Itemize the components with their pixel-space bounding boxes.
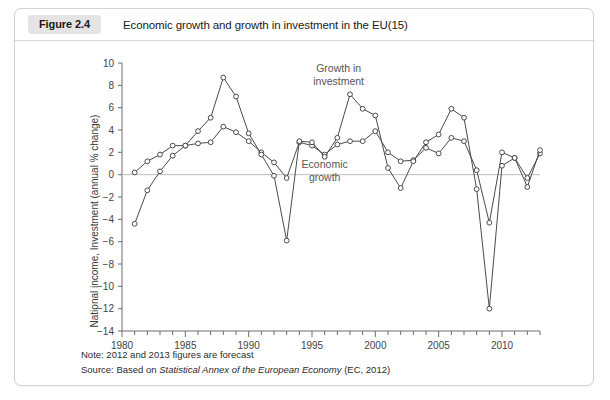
series-data-point: [259, 152, 264, 157]
series-data-point: [398, 159, 403, 164]
series-data-point: [487, 306, 492, 311]
chart-annotations: Growth ininvestmentEconomicgrowth: [302, 62, 364, 183]
annotation-line-2: investment: [313, 75, 364, 87]
source-prefix: Source: Based on: [81, 364, 159, 375]
series-data-point: [462, 115, 467, 120]
line-chart: National income, Investment (annual % ch…: [15, 41, 595, 351]
series-data-point: [500, 163, 505, 168]
series-data-point: [145, 159, 150, 164]
y-tick-label: −6: [103, 236, 115, 247]
series-data-point: [284, 238, 289, 243]
series-data-point: [246, 139, 251, 144]
series-data-point: [436, 132, 441, 137]
series-data-point: [170, 143, 175, 148]
series-data-point: [474, 168, 479, 173]
series-data-point: [449, 106, 454, 111]
y-tick-label: 4: [108, 125, 114, 136]
series-data-point: [196, 129, 201, 134]
y-tick-label: −4: [103, 214, 115, 225]
series-data-point: [386, 166, 391, 171]
annotation-line-2: growth: [309, 171, 341, 183]
series-data-point: [196, 141, 201, 146]
series-data-point: [208, 140, 213, 145]
series-layer: [132, 75, 542, 311]
figure-source: Source: Based on Statistical Annex of th…: [81, 362, 593, 377]
series-data-point: [272, 160, 277, 165]
series-data-point: [360, 139, 365, 144]
series-data-point: [525, 176, 530, 181]
series-data-point: [398, 186, 403, 191]
y-tick-label: −10: [97, 281, 114, 292]
series-data-point: [525, 185, 530, 190]
series-data-point: [170, 153, 175, 158]
figure-card: Figure 2.4 Economic growth and growth in…: [14, 8, 594, 386]
series-data-point: [335, 142, 340, 147]
series-data-point: [386, 150, 391, 155]
source-title: Statistical Annex of the European Econom…: [159, 364, 341, 375]
series-data-point: [208, 115, 213, 120]
series-data-point: [183, 143, 188, 148]
series-data-point: [145, 188, 150, 193]
series-data-point: [487, 220, 492, 225]
annotation-1: Growth ininvestment: [313, 62, 364, 87]
series-data-point: [221, 75, 226, 80]
y-axis-ticks: 1086420−2−4−6−8−10−12−14: [97, 58, 122, 337]
figure-title: Economic growth and growth in investment…: [123, 19, 408, 31]
series-data-point: [234, 94, 239, 99]
series-data-point: [158, 152, 163, 157]
series-data-point: [234, 130, 239, 135]
series-data-point: [348, 92, 353, 97]
figure-number-badge: Figure 2.4: [28, 15, 101, 34]
annotation-line-1: Growth in: [316, 62, 361, 74]
series-data-point: [436, 151, 441, 156]
y-tick-label: −12: [97, 303, 114, 314]
y-tick-label: −14: [97, 326, 114, 337]
y-tick-label: 6: [108, 102, 114, 113]
series-data-point: [449, 135, 454, 140]
annotation-2: Economicgrowth: [302, 158, 348, 183]
source-suffix: (EC, 2012): [342, 364, 391, 375]
series-data-point: [373, 129, 378, 134]
y-tick-label: 10: [103, 58, 115, 69]
figure-footer: Note: 2012 and 2013 figures are forecast…: [15, 347, 593, 377]
y-tick-label: −8: [103, 259, 115, 270]
series-data-point: [500, 150, 505, 155]
y-tick-label: 8: [108, 80, 114, 91]
series-data-point: [512, 156, 517, 161]
series-data-point: [221, 124, 226, 129]
series-data-point: [310, 140, 315, 145]
figure-note: Note: 2012 and 2013 figures are forecast: [81, 347, 593, 362]
series-data-point: [132, 221, 137, 226]
series-data-point: [132, 170, 137, 175]
series-data-point: [284, 176, 289, 181]
series-2: [132, 75, 542, 311]
series-data-point: [158, 169, 163, 174]
y-tick-label: 0: [108, 169, 114, 180]
series-line: [135, 78, 540, 309]
series-data-point: [462, 139, 467, 144]
series-data-point: [538, 148, 543, 153]
series-data-point: [474, 187, 479, 192]
y-axis-title: National income, Investment (annual % ch…: [89, 115, 100, 328]
series-data-point: [246, 131, 251, 136]
series-data-point: [272, 173, 277, 178]
y-axis-title-text: National income, Investment (annual % ch…: [89, 115, 100, 328]
chart-plot-area: National income, Investment (annual % ch…: [15, 41, 593, 351]
series-data-point: [335, 135, 340, 140]
annotation-line-1: Economic: [302, 158, 348, 170]
series-data-point: [424, 140, 429, 145]
series-data-point: [373, 113, 378, 118]
series-data-point: [360, 106, 365, 111]
series-data-point: [297, 139, 302, 144]
y-tick-label: 2: [108, 147, 114, 158]
series-data-point: [411, 159, 416, 164]
series-data-point: [348, 139, 353, 144]
series-data-point: [424, 145, 429, 150]
figure-header: Figure 2.4 Economic growth and growth in…: [15, 9, 593, 41]
y-tick-label: −2: [103, 192, 115, 203]
